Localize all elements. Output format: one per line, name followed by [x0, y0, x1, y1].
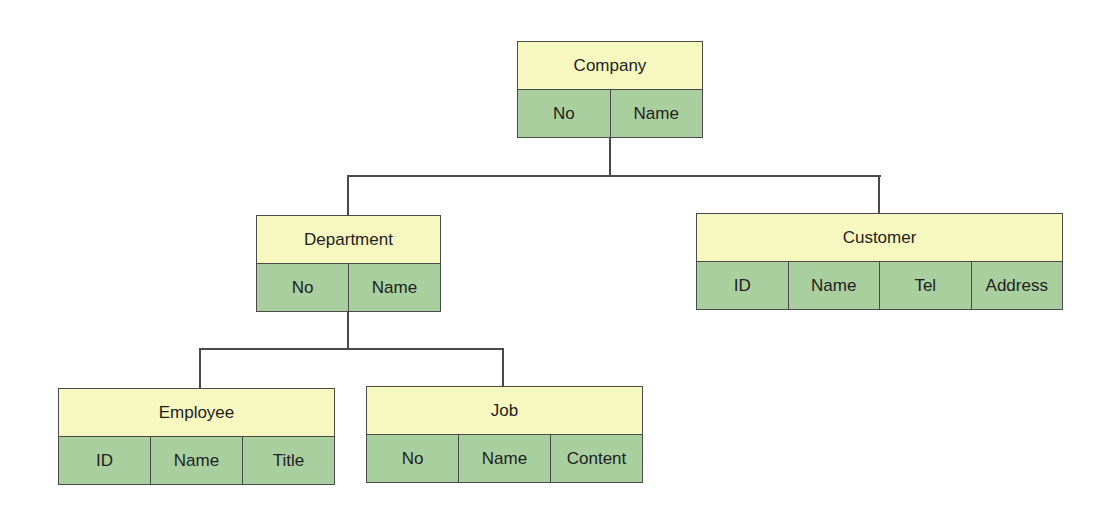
- entity-title: Department: [257, 216, 440, 264]
- entity-job: Job No Name Content: [366, 386, 643, 483]
- entity-fields: ID Name Tel Address: [697, 262, 1062, 309]
- field-id: ID: [59, 437, 151, 484]
- entity-company: Company No Name: [517, 41, 703, 138]
- connector-to-job: [502, 348, 504, 386]
- connector-department-down: [347, 311, 349, 350]
- entity-title: Employee: [59, 389, 334, 437]
- connector-company-branch: [347, 175, 881, 177]
- entity-fields: ID Name Title: [59, 437, 334, 484]
- field-tel: Tel: [880, 262, 972, 309]
- connector-company-down: [609, 137, 611, 176]
- field-address: Address: [972, 262, 1063, 309]
- connector-department-branch: [199, 348, 504, 350]
- field-name: Name: [459, 435, 551, 482]
- entity-fields: No Name: [257, 264, 440, 311]
- entity-title: Customer: [697, 214, 1062, 262]
- field-no: No: [257, 264, 349, 311]
- connector-to-employee: [199, 348, 201, 388]
- field-name: Name: [789, 262, 881, 309]
- entity-employee: Employee ID Name Title: [58, 388, 335, 485]
- field-no: No: [518, 90, 611, 137]
- connector-to-department: [347, 175, 349, 215]
- field-name: Name: [349, 264, 440, 311]
- entity-title: Job: [367, 387, 642, 435]
- field-content: Content: [551, 435, 642, 482]
- entity-department: Department No Name: [256, 215, 441, 312]
- field-name: Name: [611, 90, 703, 137]
- field-no: No: [367, 435, 459, 482]
- field-title: Title: [243, 437, 334, 484]
- field-name: Name: [151, 437, 243, 484]
- field-id: ID: [697, 262, 789, 309]
- entity-fields: No Name Content: [367, 435, 642, 482]
- entity-customer: Customer ID Name Tel Address: [696, 213, 1063, 310]
- connector-to-customer: [878, 175, 880, 213]
- entity-title: Company: [518, 42, 702, 90]
- entity-fields: No Name: [518, 90, 702, 137]
